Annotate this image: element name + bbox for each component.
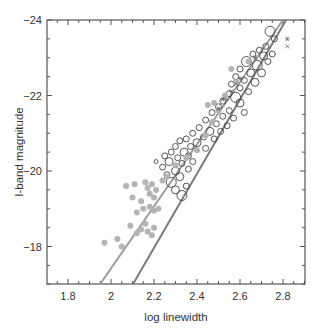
filled-circle-point bbox=[132, 181, 138, 187]
filled-circle-point bbox=[130, 194, 136, 200]
filled-circle-point bbox=[134, 210, 140, 216]
x-tick-label: 2.2 bbox=[146, 290, 161, 302]
open-circle-point bbox=[265, 26, 275, 36]
filled-circle-point bbox=[153, 187, 159, 193]
filled-circle-point bbox=[155, 206, 161, 212]
fit-lines bbox=[100, 20, 286, 284]
x-tick-label: 2.8 bbox=[275, 290, 290, 302]
y-tick-label: −20 bbox=[23, 165, 42, 177]
open-circle-point bbox=[203, 145, 209, 151]
open-circle-point bbox=[185, 166, 191, 172]
filled-circle-point bbox=[127, 223, 133, 229]
filled-circle-point bbox=[149, 181, 155, 187]
axis-tick-labels: 1.822.22.42.62.8−24−22−20−18 bbox=[23, 14, 290, 302]
filled-circle-point bbox=[194, 147, 200, 153]
open-circle-point bbox=[165, 158, 173, 166]
filled-circle-point bbox=[114, 236, 120, 242]
open-circle-point bbox=[258, 69, 266, 77]
filled-circle-point bbox=[173, 162, 179, 168]
filled-circle-point bbox=[140, 206, 146, 212]
open-circle-point bbox=[190, 159, 196, 165]
open-circle-point bbox=[188, 143, 194, 149]
open-circle-point bbox=[196, 125, 202, 131]
filled-circle-point bbox=[102, 240, 108, 246]
x-tick-label: 2.6 bbox=[232, 290, 247, 302]
filled-circle-point bbox=[123, 183, 129, 189]
filled-circle-point bbox=[142, 221, 148, 227]
open-circle-point bbox=[173, 143, 179, 149]
open-circle-point bbox=[190, 130, 196, 136]
x-tick-label: 2 bbox=[108, 290, 114, 302]
open-circle-point bbox=[183, 136, 189, 142]
filled-circle-point bbox=[246, 59, 252, 65]
open-circle-point bbox=[175, 155, 181, 161]
open-circle-point bbox=[269, 51, 275, 57]
open-circle-point bbox=[160, 164, 166, 170]
open-circle-point bbox=[176, 173, 184, 181]
open-circle-point bbox=[231, 115, 237, 121]
x-tick-label: 2.4 bbox=[189, 290, 204, 302]
filled-circle-point bbox=[209, 119, 215, 125]
open-circle-point bbox=[220, 113, 226, 119]
filled-circle-point bbox=[142, 179, 148, 185]
tully-fisher-chart: 1.822.22.42.62.8−24−22−20−18 log linewid… bbox=[0, 0, 322, 328]
fit-left-line bbox=[100, 20, 283, 284]
y-axis-label: I-band magnitude bbox=[13, 107, 25, 197]
filled-circle-point bbox=[205, 102, 211, 108]
y-tick-label: −18 bbox=[23, 241, 42, 253]
filled-circle-point bbox=[149, 232, 155, 238]
open-circle-point bbox=[168, 149, 174, 155]
filled-circle-point bbox=[183, 155, 189, 161]
cross-point bbox=[285, 44, 289, 48]
filled-circle-point bbox=[138, 227, 144, 233]
open-circle-point bbox=[154, 160, 158, 164]
filled-circle-point bbox=[203, 132, 209, 138]
filled-circle-point bbox=[119, 244, 125, 250]
filled-circle-point bbox=[151, 194, 157, 200]
open-circle-point bbox=[183, 183, 189, 189]
filled-circle-point bbox=[211, 100, 217, 106]
open-circle-point bbox=[226, 108, 232, 114]
y-tick-label: −24 bbox=[23, 14, 42, 26]
filled-circle-point bbox=[151, 225, 157, 231]
open-circle-point bbox=[251, 78, 259, 86]
open-circle-point bbox=[247, 69, 255, 77]
data-points bbox=[102, 26, 290, 249]
axis-ticks bbox=[47, 20, 305, 284]
y-tick-label: −22 bbox=[23, 90, 42, 102]
open-circle-point bbox=[241, 109, 247, 115]
open-circle-point bbox=[237, 66, 243, 72]
open-circle-point bbox=[177, 138, 183, 144]
x-tick-label: 1.8 bbox=[60, 290, 75, 302]
open-circle-point bbox=[209, 109, 215, 115]
asterisk-point bbox=[285, 37, 290, 41]
filled-circle-point bbox=[164, 174, 170, 180]
plot-frame bbox=[47, 20, 305, 284]
filled-circle-point bbox=[138, 198, 144, 204]
x-axis-label: log linewidth bbox=[144, 311, 207, 323]
open-circle-point bbox=[265, 59, 271, 65]
filled-circle-point bbox=[228, 66, 234, 72]
open-circle-point bbox=[250, 51, 256, 57]
open-circle-point bbox=[203, 117, 209, 123]
open-circle-point bbox=[246, 89, 252, 95]
